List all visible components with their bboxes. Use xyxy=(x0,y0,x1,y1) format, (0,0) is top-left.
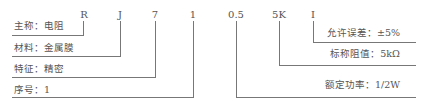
code-5k: 5K xyxy=(272,9,286,20)
connector-r-vertical xyxy=(83,21,84,36)
label-resistance: 标称阻值：5kΩ xyxy=(330,48,400,59)
connector-1-horizontal xyxy=(12,97,194,98)
code-i: I xyxy=(311,9,315,20)
code-0-5: 0.5 xyxy=(228,9,244,20)
code-j: J xyxy=(118,9,122,20)
label-main-name: 主称：电阻 xyxy=(14,20,64,31)
connector-r-horizontal xyxy=(12,35,84,36)
label-feature: 特征：精密 xyxy=(14,63,64,74)
label-power: 额定功率：1/2W xyxy=(325,79,400,90)
label-tolerance: 允许误差：±5% xyxy=(327,27,400,38)
connector-j-horizontal xyxy=(12,56,121,57)
connector-i-vertical xyxy=(313,21,314,43)
code-r: R xyxy=(80,9,88,20)
code-1: 1 xyxy=(190,9,196,20)
connector-i-horizontal xyxy=(313,42,416,43)
connector-j-vertical xyxy=(120,21,121,57)
label-serial: 序号：1 xyxy=(14,84,50,95)
label-material: 材料：金属膜 xyxy=(14,42,74,53)
connector-1-vertical xyxy=(193,21,194,98)
connector-7-horizontal xyxy=(12,77,156,78)
connector-7-vertical xyxy=(155,21,156,78)
connector-0-5-vertical xyxy=(236,21,237,98)
code-7: 7 xyxy=(152,9,158,20)
connector-5k-horizontal xyxy=(279,65,416,66)
connector-0-5-horizontal xyxy=(236,97,416,98)
connector-5k-vertical xyxy=(279,21,280,66)
